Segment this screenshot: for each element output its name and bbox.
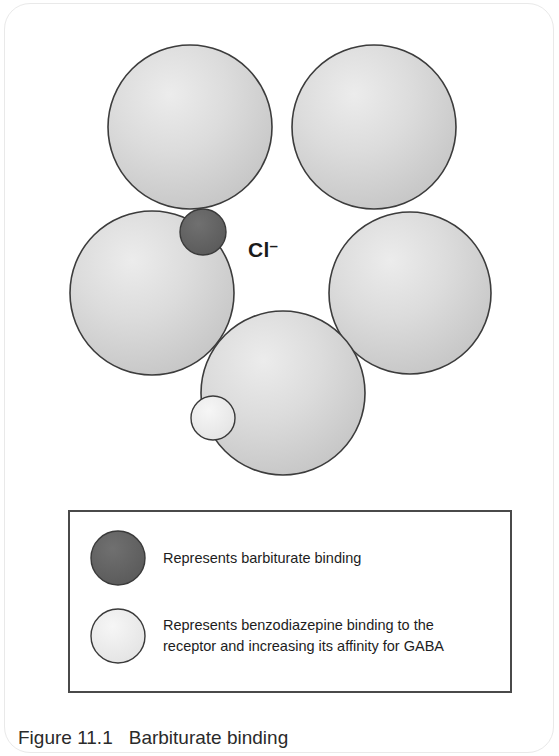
barbiturate-swatch xyxy=(89,529,147,587)
chloride-label-text: Cl xyxy=(248,238,270,261)
legend-label-benzodiazepine: Represents benzodiazepine binding to the… xyxy=(163,615,444,656)
receptor-diagram: Cl– xyxy=(0,0,559,500)
barbiturate-swatch-wrap xyxy=(88,529,148,587)
figure-caption-title: Barbiturate binding xyxy=(129,727,289,748)
legend: Represents barbiturate binding Represent… xyxy=(68,510,512,693)
figure-caption: Figure 11.1Barbiturate binding xyxy=(18,727,288,749)
barbiturate-binding-site xyxy=(180,209,226,255)
benzodiazepine-swatch xyxy=(89,607,147,665)
chloride-channel-label: Cl– xyxy=(248,237,278,262)
subunit-group xyxy=(70,45,491,475)
subunit-bottom xyxy=(201,311,365,475)
legend-label-barbiturate: Represents barbiturate binding xyxy=(163,548,361,569)
benzodiazepine-swatch-wrap xyxy=(88,607,148,665)
legend-item-benzodiazepine: Represents benzodiazepine binding to the… xyxy=(88,607,444,665)
benzodiazepine-binding-site xyxy=(191,396,235,440)
legend-item-barbiturate: Represents barbiturate binding xyxy=(88,529,361,587)
figure-caption-number: Figure 11.1 xyxy=(18,727,113,748)
subunit-top-left xyxy=(108,45,272,209)
receptor-diagram-svg xyxy=(0,0,559,500)
subunit-top-right xyxy=(292,45,456,209)
chloride-label-charge: – xyxy=(270,237,278,254)
